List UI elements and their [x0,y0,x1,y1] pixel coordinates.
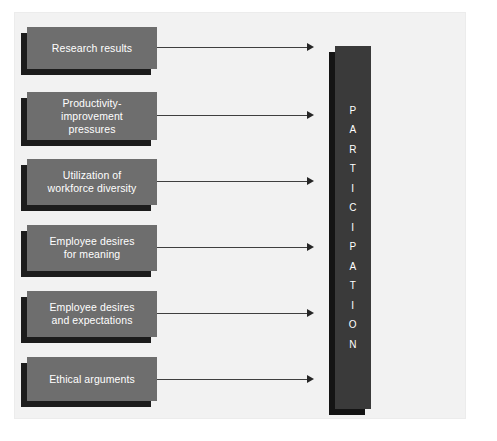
arrow-head-icon [307,309,314,317]
arrow-productivity-improvement-pressures-to-participation [157,111,314,120]
arrow-shaft [157,247,307,248]
arrow-head-icon [307,177,314,185]
arrow-shaft [157,379,307,380]
arrow-shaft [157,115,307,116]
arrow-shaft [157,313,307,314]
driver-box-employee-desires-and-expectations[interactable]: Employee desires and expectations [27,291,157,337]
driver-box-utilization-of-workforce-diversity[interactable]: Utilization of workforce diversity [27,159,157,205]
arrow-utilization-of-workforce-diversity-to-participation [157,177,314,186]
driver-box-label: Productivity- improvement pressures [61,97,123,136]
arrow-ethical-arguments-to-participation [157,375,314,384]
arrow-research-results-to-participation [157,43,314,52]
participation-bar[interactable] [335,46,371,409]
driver-box-label: Research results [52,42,132,55]
driver-box-ethical-arguments[interactable]: Ethical arguments [27,357,157,401]
driver-box-label: Utilization of workforce diversity [48,169,137,195]
arrow-head-icon [307,243,314,251]
driver-box-label: Employee desires and expectations [49,301,134,327]
arrow-employee-desires-and-expectations-to-participation [157,309,314,318]
arrow-head-icon [307,111,314,119]
arrow-head-icon [307,43,314,51]
arrow-shaft [157,181,307,182]
driver-box-productivity-improvement-pressures[interactable]: Productivity- improvement pressures [27,92,157,140]
arrow-shaft [157,47,307,48]
diagram-canvas: Research results Productivity- improveme… [14,12,466,419]
arrow-employee-desires-for-meaning-to-participation [157,243,314,252]
arrow-head-icon [307,375,314,383]
driver-box-research-results[interactable]: Research results [27,27,157,69]
driver-box-employee-desires-for-meaning[interactable]: Employee desires for meaning [27,225,157,271]
driver-box-label: Employee desires for meaning [49,235,134,261]
driver-box-label: Ethical arguments [49,373,135,386]
diagram-figure: Research results Productivity- improveme… [0,0,497,441]
